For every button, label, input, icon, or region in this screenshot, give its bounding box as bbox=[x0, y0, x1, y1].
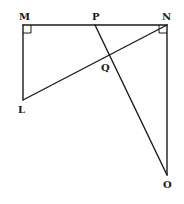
label-L: L bbox=[18, 104, 25, 115]
label-Q: Q bbox=[101, 62, 110, 73]
label-N: N bbox=[162, 11, 171, 22]
segment-LN bbox=[23, 25, 167, 100]
label-P: P bbox=[92, 11, 100, 22]
right-angle-marker-M bbox=[23, 25, 31, 33]
label-O: O bbox=[163, 179, 172, 190]
geometry-diagram: M P N Q L O bbox=[0, 0, 184, 204]
segment-PO bbox=[95, 25, 167, 175]
label-M: M bbox=[19, 11, 30, 22]
